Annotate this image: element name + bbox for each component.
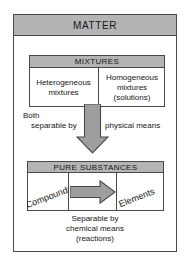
mixtures-header: MIXTURES bbox=[29, 55, 165, 68]
compounds-label: Compounds bbox=[27, 183, 69, 210]
pure-substances-header: PURE SUBSTANCES bbox=[27, 161, 164, 173]
homogeneous-line3: (solutions) bbox=[106, 93, 158, 103]
caption-line3: (reactions) bbox=[13, 234, 177, 244]
matter-header: MATTER bbox=[13, 14, 177, 36]
heterogeneous-mixtures-cell: Heterogeneous mixtures bbox=[29, 68, 99, 107]
homogeneous-line1: Homogeneous bbox=[106, 73, 158, 83]
heterogeneous-line2: mixtures bbox=[36, 88, 91, 98]
caption-line1: Separable by bbox=[13, 214, 177, 224]
compounds-cell: Compounds bbox=[27, 173, 69, 211]
diagram-canvas: MATTER MIXTURES Heterogeneous mixtures H… bbox=[0, 0, 190, 264]
bottom-caption: Separable by chemical means (reactions) bbox=[13, 214, 177, 244]
matter-label: MATTER bbox=[73, 20, 117, 31]
homogeneous-mixtures-cell: Homogeneous mixtures (solutions) bbox=[99, 68, 165, 107]
heterogeneous-line1: Heterogeneous bbox=[36, 78, 91, 88]
elements-cell: Elements bbox=[117, 173, 164, 211]
homogeneous-line2: mixtures bbox=[106, 83, 158, 93]
mixtures-label: MIXTURES bbox=[75, 57, 120, 66]
elements-label: Elements bbox=[117, 186, 156, 209]
caption-line2: chemical means bbox=[13, 224, 177, 234]
label-both: Both bbox=[23, 111, 39, 121]
label-physical-means: physical means bbox=[105, 121, 160, 131]
pure-substances-label: PURE SUBSTANCES bbox=[53, 163, 137, 172]
down-arrow-icon bbox=[76, 104, 109, 154]
label-separable-by: separable by bbox=[31, 121, 77, 131]
right-arrow-icon bbox=[70, 180, 116, 204]
